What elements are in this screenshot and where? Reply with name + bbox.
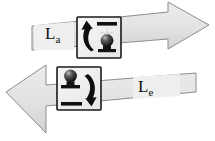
absorption-inset-box — [77, 17, 121, 58]
emission-label-subscript: e — [148, 86, 153, 98]
emission-sphere — [64, 70, 77, 83]
emission-label: Le — [138, 78, 153, 98]
absorption-label: La — [45, 25, 60, 45]
emission-ground-level-bar — [61, 102, 82, 106]
absorption-label-subscript: a — [55, 33, 60, 45]
diagram-canvas: La Le — [0, 0, 215, 141]
emission-inset-box — [57, 67, 101, 110]
emission-excited-level-bar — [61, 85, 80, 88]
absorption-label-base: L — [45, 24, 55, 43]
emission-label-base: L — [138, 77, 148, 96]
absorption-excited-level-bar — [97, 22, 117, 26]
diagram-vector-layer — [0, 0, 215, 141]
absorption-sphere — [101, 34, 114, 47]
